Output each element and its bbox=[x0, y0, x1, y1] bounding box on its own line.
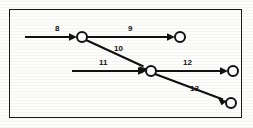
edge-label-11: 11 bbox=[99, 59, 107, 67]
edge-label-9: 9 bbox=[128, 25, 132, 33]
node-d[interactable] bbox=[228, 66, 238, 76]
edge-13-line bbox=[155, 74, 223, 100]
edge-12-arrowhead bbox=[220, 67, 228, 75]
node-c[interactable] bbox=[146, 66, 156, 76]
node-a[interactable] bbox=[77, 32, 87, 42]
edge-11-group bbox=[72, 67, 146, 75]
edge-label-10: 10 bbox=[114, 45, 123, 53]
edge-8-group bbox=[25, 33, 77, 41]
edge-label-13: 13 bbox=[190, 85, 199, 93]
node-b[interactable] bbox=[175, 32, 185, 42]
network-diagram-svg bbox=[0, 0, 253, 128]
edge-9-arrowhead bbox=[167, 33, 175, 41]
edge-9-group bbox=[87, 33, 175, 41]
edge-label-8: 8 bbox=[55, 25, 59, 33]
edge-label-12: 12 bbox=[183, 59, 192, 67]
edge-8-arrowhead bbox=[69, 33, 77, 41]
node-e[interactable] bbox=[226, 98, 236, 108]
edge-12-group bbox=[156, 67, 228, 75]
diagram-canvas: 8 9 10 11 12 13 bbox=[0, 0, 253, 128]
